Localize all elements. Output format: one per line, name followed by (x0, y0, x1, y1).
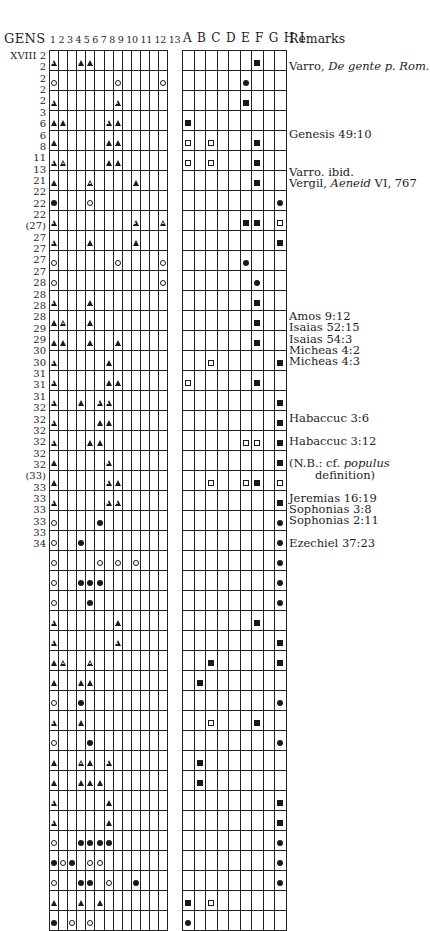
table-row (50, 371, 168, 391)
numbered-grid-cell (95, 531, 104, 551)
gens-value: 32 (0, 425, 46, 436)
lettered-grid-cell (275, 191, 287, 211)
open-circle-icon (87, 920, 93, 926)
numbered-grid-cell (122, 731, 131, 751)
lettered-grid-cell (252, 71, 264, 91)
numbered-grid-cell (86, 771, 95, 791)
numbered-grid-cell (50, 491, 59, 511)
numbered-grid-cell (122, 311, 131, 331)
filled-square-icon (254, 60, 260, 66)
open-triangle-icon (51, 300, 57, 306)
numbered-grid-cell (122, 491, 131, 511)
remark-text: Sophonias 2:11 (289, 515, 379, 527)
numbered-grid-cell (122, 551, 131, 571)
lettered-grid-cell (217, 691, 229, 711)
lettered-grid-cell (206, 531, 218, 551)
numbered-grid-cell (113, 751, 122, 771)
numbered-grid-cell (140, 911, 149, 931)
lettered-grid-cell (263, 471, 275, 491)
filled-triangle-icon (87, 680, 93, 686)
table-row (183, 631, 287, 651)
numbered-grid-cell (113, 51, 122, 71)
open-circle-icon (160, 260, 166, 266)
numbered-grid-cell (59, 431, 68, 451)
numbered-grid-cell (77, 111, 86, 131)
lettered-grid-cell (229, 491, 241, 511)
open-triangle-icon (115, 100, 121, 106)
numbered-grid-cell (95, 111, 104, 131)
numbered-grid-cell (104, 651, 113, 671)
numbered-grid-cell (122, 871, 131, 891)
numbered-grid-cell (140, 211, 149, 231)
numbered-grid-cell (68, 151, 77, 171)
lettered-grid-cell (263, 751, 275, 771)
table-row (50, 151, 168, 171)
filled-square-icon (277, 800, 283, 806)
numbered-grid-cell (159, 851, 168, 871)
lettered-grid-cell (229, 331, 241, 351)
filled-square-icon (243, 220, 249, 226)
numbered-grid-cell (140, 631, 149, 651)
numbered-grid-cell (131, 791, 140, 811)
numbered-grid-cell (86, 291, 95, 311)
numbered-grid-cell (159, 891, 168, 911)
open-circle-icon (51, 700, 57, 706)
table-row (183, 151, 287, 171)
lettered-grid-cell (252, 291, 264, 311)
lettered-grid-cell (183, 771, 195, 791)
numbered-grid-cell (159, 631, 168, 651)
lettered-grid-cell (194, 291, 206, 311)
lettered-grid-cell (263, 451, 275, 471)
table-row (183, 811, 287, 831)
lettered-grid-cell (206, 271, 218, 291)
lettered-grid-cell (206, 291, 218, 311)
numbered-grid-cell (95, 851, 104, 871)
filled-square-icon (254, 320, 260, 326)
lettered-grid-cell (194, 51, 206, 71)
numbered-grid-cell (59, 391, 68, 411)
gens-value: 6 (0, 118, 46, 129)
numbered-grid-cell (150, 431, 159, 451)
table-row (183, 771, 287, 791)
numbered-grid-cell (150, 551, 159, 571)
lettered-grid-cell (229, 291, 241, 311)
lettered-grid-cell (194, 471, 206, 491)
numbered-grid-cell (95, 91, 104, 111)
numbered-grid-cell (113, 391, 122, 411)
numbered-grid-cell (104, 431, 113, 451)
numbered-grid-cell (50, 271, 59, 291)
numbered-grid-cell (150, 71, 159, 91)
numbered-grid-cell (113, 891, 122, 911)
table-row (183, 571, 287, 591)
lettered-grid-cell (217, 671, 229, 691)
open-triangle-icon (115, 500, 121, 506)
numbered-grid-cell (113, 631, 122, 651)
filled-triangle-icon (106, 380, 112, 386)
numbered-grid-cell (77, 391, 86, 411)
numbered-grid-cell (68, 411, 77, 431)
numbered-grid-cell (77, 531, 86, 551)
lettered-grid-cell (217, 151, 229, 171)
lettered-grid-cell (194, 791, 206, 811)
numbered-grid-cell (131, 631, 140, 651)
lettered-grid-cell (194, 371, 206, 391)
numbered-grid-cell (104, 751, 113, 771)
numbered-grid-cell (140, 571, 149, 591)
open-triangle-icon (133, 220, 139, 226)
lettered-grid-cell (194, 131, 206, 151)
lettered-grid-cell (252, 811, 264, 831)
open-circle-icon (115, 560, 121, 566)
table-row (183, 511, 287, 531)
lettered-grid-cell (240, 571, 252, 591)
lettered-grid-cell (252, 91, 264, 111)
numbered-grid-cell (59, 311, 68, 331)
table-row (183, 291, 287, 311)
table-row (183, 171, 287, 191)
numbered-grid-cell (77, 631, 86, 651)
numbered-grid-cell (140, 771, 149, 791)
numbered-grid-cell (50, 451, 59, 471)
lettered-grid-cell (229, 711, 241, 731)
numbered-grid-cell (59, 331, 68, 351)
remarks-column-header: Remarks (289, 31, 345, 46)
lettered-grid-cell (217, 371, 229, 391)
